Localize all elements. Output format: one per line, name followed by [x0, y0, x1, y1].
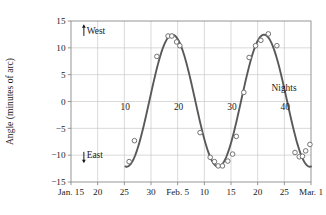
data-point-marker [230, 152, 235, 157]
data-point-marker [178, 43, 183, 48]
data-point-marker [155, 54, 160, 59]
data-point-marker [242, 90, 247, 95]
y-tick-label: −5 [56, 124, 66, 134]
y-tick-label: −15 [51, 177, 66, 187]
data-point-marker [234, 134, 239, 139]
x-tick-label: 30 [146, 187, 156, 197]
night-count-40: 40 [281, 102, 291, 112]
data-point-marker [266, 32, 271, 37]
x-tick-label: 20 [253, 187, 263, 197]
data-point-marker [303, 149, 308, 154]
data-point-marker [275, 43, 280, 48]
x-tick-label: 20 [93, 187, 103, 197]
night-count-30: 30 [227, 102, 237, 112]
data-point-marker [226, 159, 231, 164]
y-tick-label: −10 [51, 150, 66, 160]
west-direction: West [87, 26, 106, 36]
data-point-marker [308, 142, 313, 147]
data-point-marker [259, 38, 264, 43]
x-tick-label: 25 [280, 187, 290, 197]
data-point-marker [220, 164, 225, 169]
data-point-marker [300, 154, 305, 159]
data-point-marker [132, 138, 137, 143]
y-axis-title-text: Angle (minutes of arc) [4, 58, 16, 145]
x-tick-label: Mar. 1 [299, 187, 323, 197]
chart-figure: 151050−5−10−15 Jan. 15202530Feb. 5101520… [0, 0, 326, 215]
data-point-marker [198, 130, 203, 135]
y-axis-title: Angle (minutes of arc) [4, 58, 16, 145]
x-tick-label: 25 [120, 187, 130, 197]
x-tick-label: 15 [226, 187, 236, 197]
data-point-marker [127, 159, 132, 164]
data-point-marker [293, 150, 298, 155]
data-point-marker [170, 34, 175, 39]
data-point-marker [208, 155, 213, 160]
chart-background [0, 0, 326, 215]
night-count-10: 10 [121, 102, 131, 112]
x-tick-label: Jan. 15 [58, 187, 84, 197]
y-tick-label: 5 [61, 70, 66, 80]
y-tick-label: 10 [56, 43, 66, 53]
x-tick-label: Feb. 5 [166, 187, 189, 197]
angle-vs-nights-chart: 151050−5−10−15 Jan. 15202530Feb. 5101520… [0, 0, 326, 215]
data-point-marker [247, 55, 252, 60]
x-tick-label: 10 [200, 187, 210, 197]
night-count-20: 20 [174, 102, 184, 112]
east-direction: East [87, 150, 104, 160]
y-tick-label: 15 [56, 16, 66, 26]
y-tick-label: 0 [61, 97, 66, 107]
data-point-marker [253, 43, 258, 48]
nights-axis-label: Nights [272, 83, 297, 93]
data-point-marker [212, 159, 217, 164]
